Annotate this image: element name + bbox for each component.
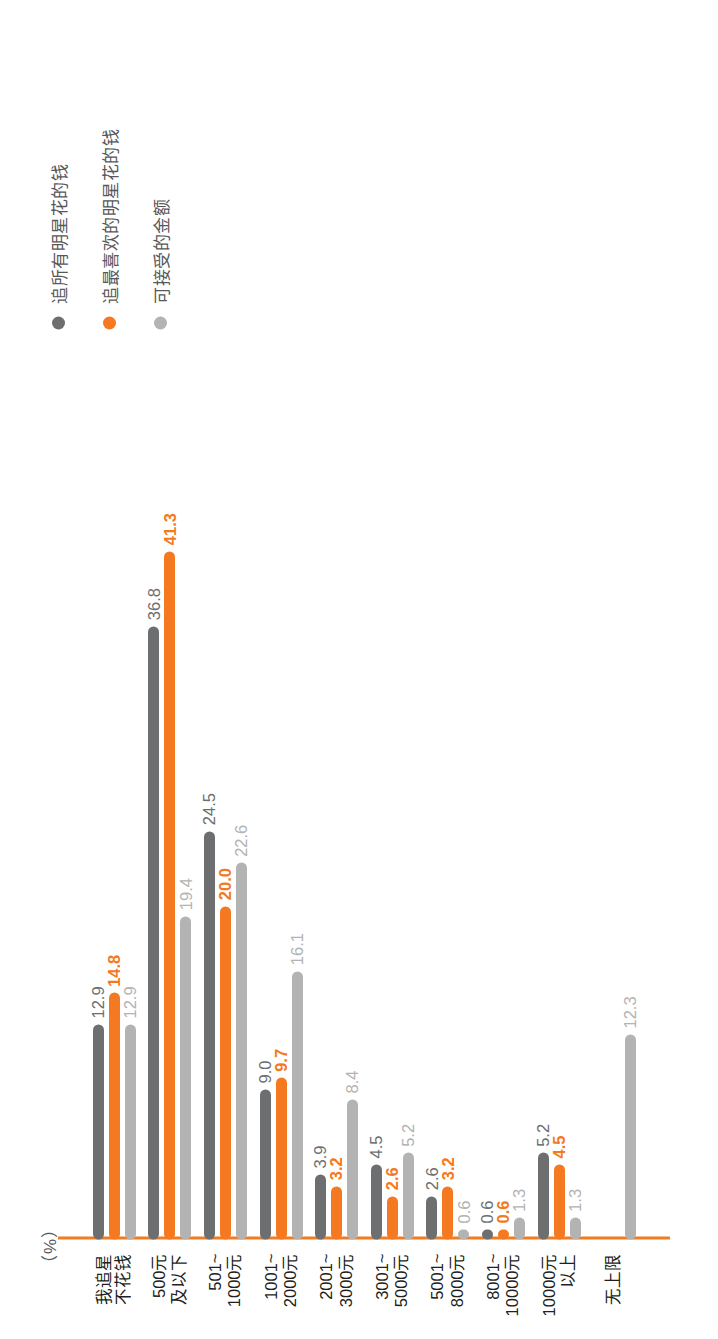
legend-item: 可接受的金额 [148,128,173,329]
bar-value-label: 4.5 [551,1135,568,1158]
bar [204,831,215,1239]
bar-value-label: 12.9 [122,986,139,1018]
bar-row: 20.0 [220,868,231,1239]
bar-value-label: 19.4 [178,878,195,910]
bar-row: 12.3 [625,996,636,1239]
category-label: 5001~ 8000元 [428,1253,467,1307]
bar [148,626,159,1239]
bar-row: 4.5 [554,1135,565,1239]
bar-value-label: 2.6 [424,1167,441,1190]
bar-group: 3.93.28.42001~ 3000元 [308,369,364,1239]
bar-value-label: 24.5 [201,793,218,825]
rotated-page-wrapper: （%） 追所有明星花的钱追最喜欢的明星花的钱可接受的金额 12.914.812.… [0,0,718,1339]
bar-value-label: 9.7 [273,1048,290,1071]
bar-value-label: 4.5 [368,1135,385,1158]
bar-group: 9.09.716.11001~ 2000元 [253,369,309,1239]
legend-dot-icon [154,316,167,329]
bar-value-label: 41.3 [162,513,179,545]
bar-row: 36.8 [148,588,159,1239]
bar-value-label: 0.6 [456,1200,473,1223]
bar [292,971,303,1239]
bar-value-label: 20.0 [217,868,234,900]
bar-row: 3.9 [315,1145,326,1239]
bar [331,1186,342,1239]
bar-value-label: 12.3 [622,996,639,1028]
bar [426,1196,437,1239]
bar [109,992,120,1239]
chart-canvas: （%） 追所有明星花的钱追最喜欢的明星花的钱可接受的金额 12.914.812.… [0,0,718,1339]
bar-value-label: 22.6 [233,824,250,856]
bar-row: 9.7 [276,1048,287,1239]
bar [387,1196,398,1239]
legend-dot-icon [103,316,116,329]
bar-group: 12.3无上限 [586,369,642,1239]
bar-row: 3.2 [331,1157,342,1239]
bar-group: 36.841.319.4500元 及以下 [142,369,198,1239]
bar-group: 5.24.51.310000元 以上 [531,369,587,1239]
bar-value-label: 5.2 [535,1123,552,1146]
bar-row: 5.2 [538,1123,549,1239]
category-label: 3001~ 5000元 [372,1253,411,1307]
bar-row: 0.6 [458,1200,469,1239]
bar [276,1077,287,1239]
bar-row: 2.6 [387,1167,398,1239]
bar-row: 19.4 [180,878,191,1239]
bar-row: 1.3 [514,1188,525,1239]
bar [180,916,191,1239]
bar-row: 16.1 [292,933,303,1239]
bar [315,1174,326,1239]
bar-row: 0.6 [498,1200,509,1239]
legend-dot-icon [52,316,65,329]
bar-value-label: 5.2 [400,1123,417,1146]
bar [442,1186,453,1239]
bar-row: 3.2 [442,1157,453,1239]
bar-value-label: 36.8 [146,588,163,620]
bar-group: 0.60.61.38001~ 10000元 [475,369,531,1239]
axis-unit-label: （%） [36,1220,61,1271]
bar [125,1024,136,1239]
bar-row: 0.6 [482,1200,493,1239]
bar [514,1217,525,1239]
category-label: 10000元 以上 [539,1253,578,1316]
bar-value-label: 12.9 [90,986,107,1018]
bar [554,1164,565,1239]
bar-value-label: 3.2 [328,1157,345,1180]
bar [220,906,231,1239]
plot-area: 12.914.812.9我追星 不花钱36.841.319.4500元 及以下2… [86,369,642,1239]
category-label: 1001~ 2000元 [261,1253,300,1307]
bar-value-label: 1.3 [567,1188,584,1211]
bar-value-label: 1.3 [511,1188,528,1211]
bar-value-label: 2.6 [384,1167,401,1190]
bar [93,1024,104,1239]
category-label: 我追星 不花钱 [94,1253,133,1304]
bar-value-label: 8.4 [344,1070,361,1093]
bar-group: 4.52.65.23001~ 5000元 [364,369,420,1239]
bar [482,1229,493,1239]
category-label: 501~ 1000元 [206,1253,245,1307]
bar-group: 24.520.022.6501~ 1000元 [197,369,253,1239]
bar-row: 14.8 [109,954,120,1239]
bar [347,1099,358,1239]
bar-row: 1.3 [570,1188,581,1239]
bar-group: 2.63.20.65001~ 8000元 [420,369,476,1239]
bar-row: 4.5 [371,1135,382,1239]
chart-legend: 追所有明星花的钱追最喜欢的明星花的钱可接受的金额 [46,128,173,329]
bar-row: 12.9 [93,986,104,1239]
bar-value-label: 3.2 [440,1157,457,1180]
category-label: 无上限 [604,1253,623,1304]
bar [164,551,175,1239]
bar [260,1089,271,1239]
bar-row: 9.0 [260,1060,271,1239]
bar-row: 12.9 [125,986,136,1239]
bar [538,1152,549,1239]
legend-item-label: 追所有明星花的钱 [46,163,71,303]
bar-value-label: 9.0 [257,1060,274,1083]
bar-row: 8.4 [347,1070,358,1239]
bar [625,1034,636,1239]
bar [498,1229,509,1239]
bar-value-label: 14.8 [106,954,123,986]
bar-group: 12.914.812.9我追星 不花钱 [86,369,142,1239]
legend-item-label: 追最喜欢的明星花的钱 [97,128,122,303]
bar-row: 22.6 [236,824,247,1239]
legend-item-label: 可接受的金额 [148,198,173,303]
